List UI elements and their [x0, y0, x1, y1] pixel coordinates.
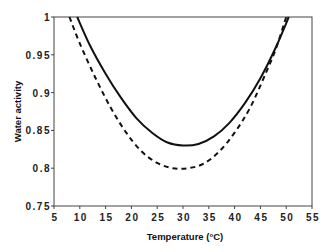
x-tick-label: 25: [151, 212, 165, 223]
x-tick-label: 5: [51, 212, 58, 223]
y-axis-label: Water activity: [12, 80, 23, 142]
x-tick-label: 10: [74, 212, 88, 223]
x-tick-label: 50: [280, 212, 294, 223]
y-tick-label: 0.85: [26, 125, 51, 136]
x-tick-label: 30: [177, 212, 191, 223]
y-tick-label: 0.9: [33, 88, 51, 99]
y-tick-label: 1: [44, 12, 51, 23]
x-tick-label: 15: [100, 212, 114, 223]
chart: 5101520253035404550550.750.80.850.90.951…: [0, 0, 336, 252]
plot-frame: [54, 17, 312, 206]
y-tick-label: 0.95: [26, 50, 51, 61]
y-tick-label: 0.75: [26, 201, 51, 212]
x-tick-label: 35: [203, 212, 217, 223]
x-axis-label: Temperature (°C): [147, 231, 223, 242]
y-tick-label: 0.8: [33, 163, 51, 174]
series-line-solid: [77, 17, 289, 146]
x-tick-label: 55: [306, 212, 320, 223]
x-tick-label: 40: [229, 212, 243, 223]
x-tick-label: 20: [125, 212, 139, 223]
x-tick-label: 45: [254, 212, 268, 223]
